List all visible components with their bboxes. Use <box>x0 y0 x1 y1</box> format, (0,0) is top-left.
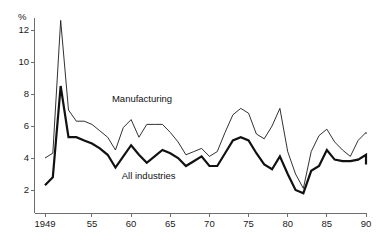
x-tick-label: 85 <box>312 219 342 229</box>
data-series-group <box>45 20 366 193</box>
axis-lines <box>35 18 367 213</box>
x-tick-label: 60 <box>116 219 146 229</box>
y-axis-unit-label: % <box>18 12 26 22</box>
x-tick-label: 80 <box>273 219 303 229</box>
chart-plot-area <box>0 0 382 251</box>
series-line-all-industries <box>45 86 366 193</box>
x-tick-label: 65 <box>155 219 185 229</box>
y-axis-ticks <box>31 30 35 190</box>
chart-figure: % 24681012 19495560657075808590 Manufact… <box>0 0 382 251</box>
y-tick-label: 4 <box>8 153 29 163</box>
series-label-manufacturing: Manufacturing <box>112 94 172 104</box>
series-label-all-industries: All industries <box>122 171 176 181</box>
x-tick-label: 70 <box>194 219 224 229</box>
y-tick-label: 2 <box>8 185 29 195</box>
y-tick-label: 8 <box>8 89 29 99</box>
y-tick-label: 6 <box>8 121 29 131</box>
x-tick-label: 1949 <box>30 219 60 229</box>
y-tick-label: 10 <box>8 57 29 67</box>
series-line-manufacturing <box>45 20 366 188</box>
x-axis-ticks <box>45 213 366 217</box>
y-tick-label: 12 <box>8 25 29 35</box>
x-tick-label: 75 <box>234 219 264 229</box>
x-tick-label: 90 <box>351 219 381 229</box>
x-tick-label: 55 <box>77 219 107 229</box>
